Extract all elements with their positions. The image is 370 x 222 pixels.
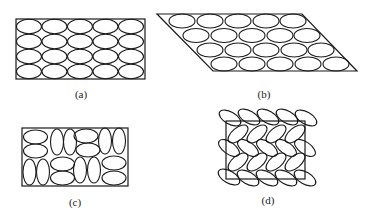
panel-b-ellipses bbox=[169, 14, 349, 71]
panel-a: (a) bbox=[16, 19, 145, 101]
panel-c-label: (c) bbox=[69, 196, 82, 209]
panel-c: (c) bbox=[22, 128, 128, 209]
panel-a-label: (a) bbox=[75, 88, 88, 101]
ellipse-packing-figure: (a) (b) bbox=[0, 0, 370, 222]
panel-d-ellipses bbox=[216, 106, 320, 189]
panel-c-ellipses bbox=[23, 128, 126, 185]
panel-a-ellipses bbox=[17, 19, 144, 78]
panel-b: (b) bbox=[157, 14, 357, 101]
panel-d: (d) bbox=[216, 106, 320, 207]
panel-b-label: (b) bbox=[258, 88, 271, 101]
panel-d-label: (d) bbox=[262, 194, 275, 207]
